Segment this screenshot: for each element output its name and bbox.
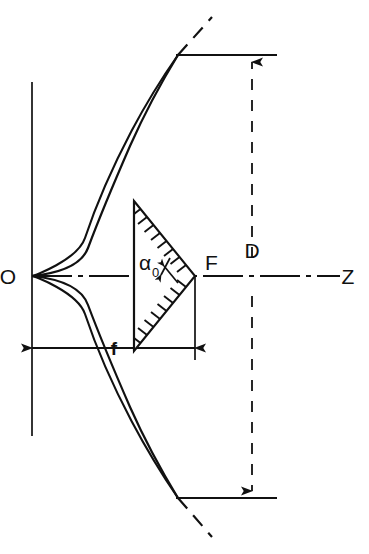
label-half-angle-subscript: 0 — [152, 265, 159, 280]
label-axis-z: Z — [342, 265, 355, 288]
label-vertex-o: O — [0, 265, 16, 288]
label-half-angle-alpha: α — [139, 251, 151, 274]
label-focal-length-f: f — [111, 338, 118, 359]
figure-canvas: O F Z D f α 0 — [0, 0, 369, 554]
label-focus-f: F — [205, 251, 218, 274]
label-diameter-d: D — [244, 239, 259, 262]
parabolic-antenna-diagram: O F Z D f α 0 — [0, 0, 369, 554]
feed-horn — [132, 201, 196, 351]
